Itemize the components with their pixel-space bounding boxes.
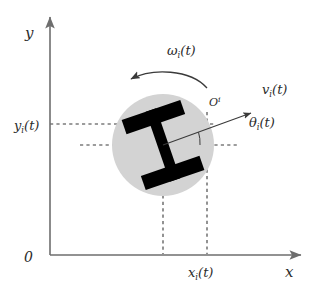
body-frame-base: O: [209, 96, 218, 109]
angular-velocity-arrow: [131, 72, 207, 88]
x-position-label: xi(t): [188, 265, 213, 282]
linear-velocity-paren: (t): [272, 82, 287, 97]
body-frame-label: Oi: [209, 95, 221, 109]
diagram-canvas: y x 0 yi(t) xi(t) ωi(t) vi(t) θi(t) Oi: [0, 0, 314, 288]
x-position-paren: (t): [198, 265, 213, 280]
linear-velocity-label: vi(t): [262, 82, 287, 99]
heading-angle-label: θi(t): [249, 115, 275, 132]
y-position-paren: (t): [24, 118, 39, 133]
angular-velocity-base: ω: [167, 43, 178, 58]
y-position-label: yi(t): [13, 118, 39, 135]
robot-kinematics-figure: y x 0 yi(t) xi(t) ωi(t) vi(t) θi(t) Oi: [0, 0, 314, 288]
x-axis-label: x: [285, 263, 294, 281]
angular-velocity-paren: (t): [180, 43, 195, 58]
y-axis-label: y: [24, 24, 34, 42]
body-frame-superscript: i: [218, 95, 221, 104]
angular-velocity-label: ωi(t): [167, 43, 196, 60]
heading-angle-base: θ: [249, 115, 257, 130]
heading-angle-paren: (t): [260, 115, 275, 130]
origin-label: 0: [24, 249, 33, 265]
